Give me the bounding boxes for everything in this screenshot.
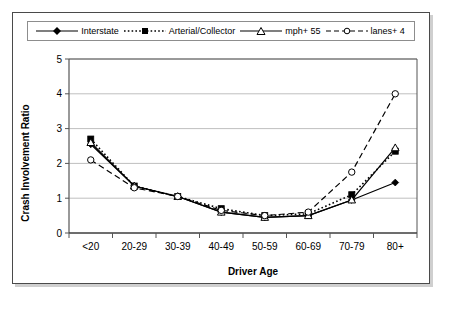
svg-text:5: 5 [56,54,62,65]
svg-text:0: 0 [56,228,62,239]
y-axis-ticks: 012345 [56,54,69,239]
svg-text:1: 1 [56,193,62,204]
svg-text:4: 4 [56,88,62,99]
svg-text:60-69: 60-69 [295,241,321,252]
gridlines [69,59,417,233]
y-axis-title: Crash Involvement Ratio [20,104,31,221]
chart-plot: 012345 <2020-2930-3940-4950-5960-6970-79… [13,13,431,285]
svg-text:20-29: 20-29 [121,241,147,252]
figure-frame: Interstate Arterial/Collector mph+ 55 la… [12,12,430,284]
svg-text:2: 2 [56,158,62,169]
x-axis-ticks: <2020-2930-3940-4950-5960-6970-7980+ [69,233,417,252]
plot-frame [69,59,417,233]
series-layer [87,91,399,221]
svg-text:80+: 80+ [387,241,404,252]
svg-text:30-39: 30-39 [165,241,191,252]
svg-text:50-59: 50-59 [252,241,278,252]
svg-text:70-79: 70-79 [339,241,365,252]
svg-text:40-49: 40-49 [208,241,234,252]
svg-text:<20: <20 [82,241,99,252]
svg-text:3: 3 [56,123,62,134]
x-axis-title: Driver Age [228,266,279,277]
